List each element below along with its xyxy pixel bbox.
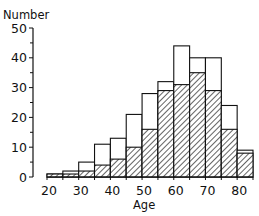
y-tick-label: 50 (11, 21, 27, 36)
y-tick-label: 20 (11, 110, 27, 125)
bar-hatched (142, 129, 158, 177)
histogram-bar (95, 144, 111, 177)
x-tick-label: 50 (136, 183, 152, 198)
histogram-bar (174, 46, 190, 177)
histogram-chart: Number 01020304050 20304050607080 Age (0, 0, 259, 216)
y-tick-label: 10 (11, 140, 27, 155)
histogram-bar (158, 82, 174, 177)
x-axis-label: Age (133, 198, 155, 212)
histogram-bar (110, 138, 126, 177)
histogram-bar (205, 58, 221, 177)
bar-hatched (79, 171, 95, 177)
bar-hatched (237, 153, 253, 177)
histogram-bar (221, 105, 237, 177)
x-tick-label: 40 (104, 183, 120, 198)
histogram-bar (142, 94, 158, 177)
y-tick-label: 30 (11, 80, 27, 95)
histogram-bar (237, 150, 253, 177)
histogram-bar (63, 171, 79, 177)
x-tick-label: 80 (231, 183, 247, 198)
y-tick-label: 40 (11, 50, 27, 65)
x-tick-label: 60 (168, 183, 184, 198)
bar-hatched (95, 165, 111, 177)
bar-hatched (126, 147, 142, 177)
histogram-bar (79, 162, 95, 177)
bar-hatched (221, 129, 237, 177)
bars (47, 46, 253, 177)
y-axis: 01020304050 (11, 21, 33, 185)
bar-hatched (205, 91, 221, 177)
bar-hatched (110, 159, 126, 177)
histogram-bar (190, 58, 206, 177)
bar-hatched (174, 85, 190, 177)
x-tick-label: 70 (200, 183, 216, 198)
bar-hatched (190, 73, 206, 177)
y-tick-label: 0 (19, 170, 27, 185)
bar-hatched (158, 91, 174, 177)
histogram-bar (126, 114, 142, 177)
x-tick-label: 30 (73, 183, 89, 198)
x-tick-label: 20 (41, 183, 57, 198)
x-axis: 20304050607080 (41, 177, 253, 198)
